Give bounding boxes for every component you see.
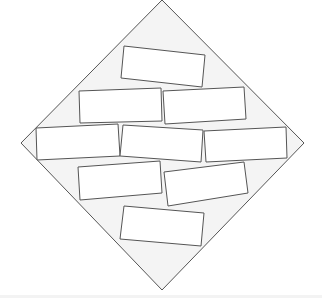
rectangles-group <box>36 46 287 246</box>
diagram-canvas <box>0 0 322 298</box>
rect-row3-middle <box>120 125 203 162</box>
rect-row4-left <box>78 161 162 200</box>
rect-row2-right <box>163 87 246 124</box>
rect-bottom <box>120 206 204 246</box>
rect-row2-left <box>79 88 162 123</box>
rect-row3-left <box>36 124 120 160</box>
rect-row3-right <box>204 127 287 162</box>
